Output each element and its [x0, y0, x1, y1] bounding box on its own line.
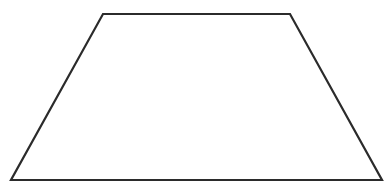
diagram-canvas: [0, 0, 392, 189]
trapezoid-shape: [11, 14, 382, 180]
